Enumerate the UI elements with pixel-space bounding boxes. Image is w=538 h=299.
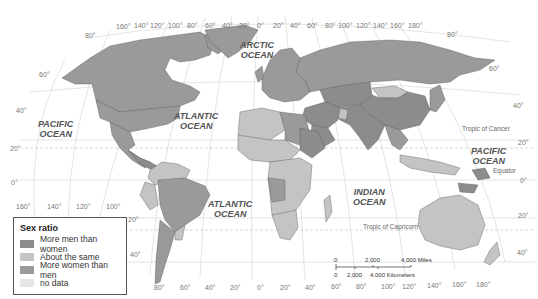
latitude-left-40n: 40° xyxy=(16,107,27,114)
longitude-top-160e: 160° xyxy=(390,22,404,29)
longitude-bottom-120e: 120° xyxy=(402,283,416,290)
latitude-right-60n: 60° xyxy=(489,65,500,72)
longitude-top-40w: 40° xyxy=(222,22,233,29)
longitude-top-20w: 20° xyxy=(239,22,250,29)
scale-miles-2000: 2,000 xyxy=(365,257,380,263)
legend-label: More men than women xyxy=(40,234,120,254)
latitude-right-20s: 20° xyxy=(518,212,529,219)
longitude-bottom-160e: 160° xyxy=(452,281,466,288)
scale-bar: 0 2,000 4,000 Miles 0 2,000 4,000 Kilome… xyxy=(333,255,423,281)
ocean-label-line: OCEAN xyxy=(471,157,506,167)
longitude-top-160w: 160° xyxy=(116,23,130,30)
legend-label: no data xyxy=(40,278,68,288)
longitude-top-80w: 80° xyxy=(187,22,198,29)
tropic-of-cancer-label: Tropic of Cancer xyxy=(462,126,510,133)
scale-km-0: 0 xyxy=(334,272,337,278)
ocean-label-atlantic-north: ATLANTIC OCEAN xyxy=(174,112,218,132)
longitude-bottom-0: 0° xyxy=(257,284,264,291)
legend-title: Sex ratio xyxy=(20,223,120,233)
ocean-label-line: OCEAN xyxy=(353,198,386,208)
legend-label: More women than men xyxy=(40,260,120,280)
longitude-bottom-100w: 100° xyxy=(106,203,120,210)
longitude-bottom-40e: 40° xyxy=(305,284,316,291)
legend-swatch xyxy=(20,240,34,248)
longitude-bottom-80e: 80° xyxy=(356,283,367,290)
ocean-label-line: OCEAN xyxy=(208,210,252,220)
latitude-right-40s: 40° xyxy=(517,249,528,256)
scale-miles-0: 0 xyxy=(334,257,337,263)
legend-item-more-men: More men than women xyxy=(20,237,120,250)
asia xyxy=(296,40,495,180)
ocean-label-arctic: ARCTIC OCEAN xyxy=(240,41,274,61)
latitude-right-40n: 40° xyxy=(513,102,524,109)
longitude-bottom-160w: 160° xyxy=(16,203,30,210)
longitude-top-40e: 40° xyxy=(290,22,301,29)
oceania xyxy=(418,183,500,265)
legend: Sex ratio More men than women About the … xyxy=(13,217,127,295)
legend-item-more-women: More women than men xyxy=(20,263,120,276)
longitude-top-100w: 100° xyxy=(168,22,182,29)
longitude-top-60e: 60° xyxy=(307,22,318,29)
longitude-top-20e: 20° xyxy=(273,22,284,29)
scale-km-2000: 2,000 xyxy=(347,272,362,278)
equator-label: Equator xyxy=(493,168,516,175)
longitude-top-60w: 60° xyxy=(205,22,216,29)
latitude-left-80n: 80° xyxy=(85,32,96,39)
longitude-bottom-120w: 120° xyxy=(76,203,90,210)
legend-swatch xyxy=(20,253,34,261)
ocean-label-line: OCEAN xyxy=(174,122,218,132)
ocean-label-pacific-east: PACIFIC OCEAN xyxy=(471,147,506,167)
longitude-top-140e: 140° xyxy=(373,22,387,29)
longitude-top-80e: 80° xyxy=(325,22,336,29)
latitude-right-20n: 20° xyxy=(518,139,529,146)
legend-swatch xyxy=(20,279,34,287)
longitude-bottom-140e: 140° xyxy=(427,282,441,289)
latitude-right-0: 0° xyxy=(520,177,527,184)
latitude-right-80n: 80° xyxy=(447,31,458,38)
tropic-of-capricorn-label: Tropic of Capricorn xyxy=(363,224,418,231)
longitude-bottom-60e: 60° xyxy=(331,283,342,290)
latitude-left-60n: 60° xyxy=(39,71,50,78)
latitude-left-20n: 20° xyxy=(10,145,21,152)
longitude-top-100e: 100° xyxy=(338,22,352,29)
longitude-bottom-80w: 80° xyxy=(154,284,165,291)
latitude-left-20s: 20° xyxy=(128,216,139,223)
latitude-left-40s: 40° xyxy=(130,251,141,258)
longitude-bottom-20e: 20° xyxy=(280,284,291,291)
longitude-bottom-40w: 40° xyxy=(205,284,216,291)
longitude-bottom-100e: 100° xyxy=(381,283,395,290)
longitude-bottom-60w: 60° xyxy=(180,284,191,291)
longitude-top-140w: 140° xyxy=(134,22,148,29)
longitude-top-120w: 120° xyxy=(150,22,164,29)
longitude-bottom-20w: 20° xyxy=(230,284,241,291)
scale-km-4000: 4,000 Kilometers xyxy=(370,272,415,278)
longitude-top-180: 180° xyxy=(408,22,422,29)
ocean-label-line: OCEAN xyxy=(38,130,73,140)
north-america xyxy=(62,28,240,170)
scale-miles-4000: 4,000 Miles xyxy=(401,257,432,263)
longitude-bottom-180: 180° xyxy=(476,281,490,288)
ocean-label-atlantic-south: ATLANTIC OCEAN xyxy=(208,200,252,220)
latitude-left-0: 0° xyxy=(11,179,18,186)
ocean-label-indian: INDIAN OCEAN xyxy=(353,188,386,208)
longitude-bottom-140w: 140° xyxy=(47,203,61,210)
legend-swatch xyxy=(20,266,34,274)
ocean-label-line: OCEAN xyxy=(240,51,274,61)
longitude-top-0: 0° xyxy=(257,22,264,29)
ocean-label-pacific-west: PACIFIC OCEAN xyxy=(38,120,73,140)
longitude-top-120e: 120° xyxy=(356,22,370,29)
